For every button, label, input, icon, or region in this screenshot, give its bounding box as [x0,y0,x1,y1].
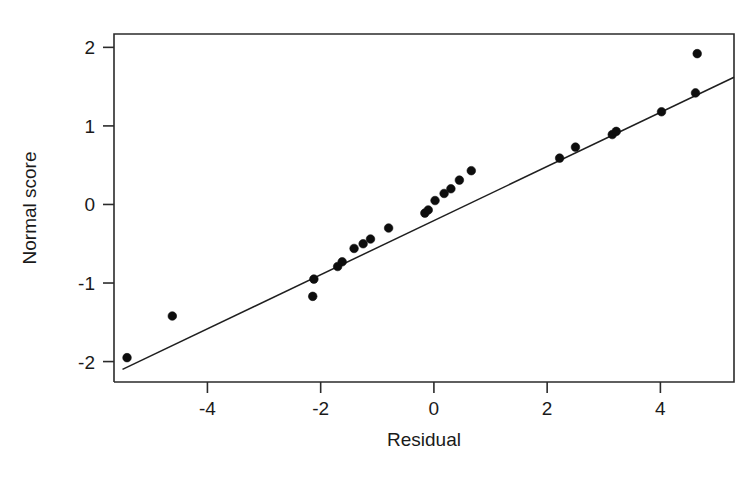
data-point-s0-7 [359,239,368,248]
x-axis-title: Residual [387,429,461,450]
data-point-s0-1 [168,312,177,321]
x-tick-label-4: 4 [655,398,666,419]
data-point-s0-8 [366,235,375,244]
data-point-s0-16 [467,166,476,175]
data-point-s0-9 [384,224,393,233]
data-point-s0-12 [431,196,440,205]
y-tick-label-3: 1 [84,116,95,137]
data-point-s1-0 [693,49,702,58]
data-point-s0-22 [691,89,700,98]
data-point-s0-2 [308,292,317,301]
data-points [123,49,702,362]
data-point-s0-21 [657,107,666,116]
normal-probability-plot-figure: -4-2024 -2-1012 Residual Normal score [0,0,756,483]
y-tick-label-2: 0 [84,194,95,215]
data-point-s0-0 [123,353,132,362]
data-point-s0-5 [338,258,347,267]
data-point-s0-3 [310,275,319,284]
data-point-s0-20 [612,127,621,136]
data-point-s0-17 [555,154,564,163]
data-point-s0-11 [424,206,433,215]
y-tick-label-1: -1 [78,273,95,294]
x-tick-label-1: -2 [312,398,329,419]
y-axis-title: Normal score [19,152,40,265]
data-point-s0-14 [447,184,456,193]
y-axis-ticks [103,47,114,361]
x-axis-tick-labels: -4-2024 [199,398,666,419]
x-tick-label-3: 2 [542,398,553,419]
x-axis-ticks [207,382,660,393]
data-point-s0-18 [571,143,580,152]
y-tick-label-0: -2 [78,352,95,373]
reference-line [122,77,734,369]
y-tick-label-4: 2 [84,37,95,58]
x-tick-label-2: 0 [429,398,440,419]
data-point-s0-15 [455,176,464,185]
fitted-line [122,77,734,369]
data-point-s0-6 [350,244,359,253]
x-tick-label-0: -4 [199,398,216,419]
plot-canvas: -4-2024 -2-1012 Residual Normal score [0,0,756,483]
y-axis-tick-labels: -2-1012 [78,37,95,372]
